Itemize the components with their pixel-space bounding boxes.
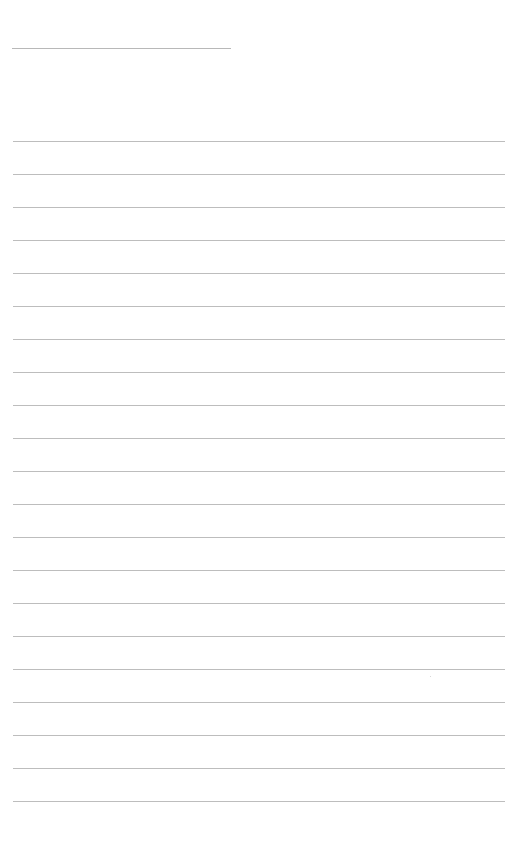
- ruled-line: [13, 207, 505, 208]
- ruled-line: [13, 669, 505, 670]
- ruled-line: [13, 339, 505, 340]
- ruled-line: [13, 570, 505, 571]
- ruled-line: [13, 537, 505, 538]
- ruled-line: [13, 735, 505, 736]
- ruled-line: [13, 141, 505, 142]
- ruled-line: [13, 306, 505, 307]
- lined-paper-page: [0, 0, 512, 843]
- paper-speck: [430, 676, 431, 677]
- header-name-line: [12, 48, 231, 49]
- ruled-line: [13, 174, 505, 175]
- ruled-line: [13, 801, 505, 802]
- ruled-line: [13, 372, 505, 373]
- ruled-line: [13, 504, 505, 505]
- ruled-line: [13, 240, 505, 241]
- ruled-line: [13, 438, 505, 439]
- ruled-line: [13, 702, 505, 703]
- ruled-line: [13, 405, 505, 406]
- ruled-line: [13, 273, 505, 274]
- ruled-line: [13, 471, 505, 472]
- ruled-line: [13, 768, 505, 769]
- ruled-line: [13, 636, 505, 637]
- ruled-line: [13, 603, 505, 604]
